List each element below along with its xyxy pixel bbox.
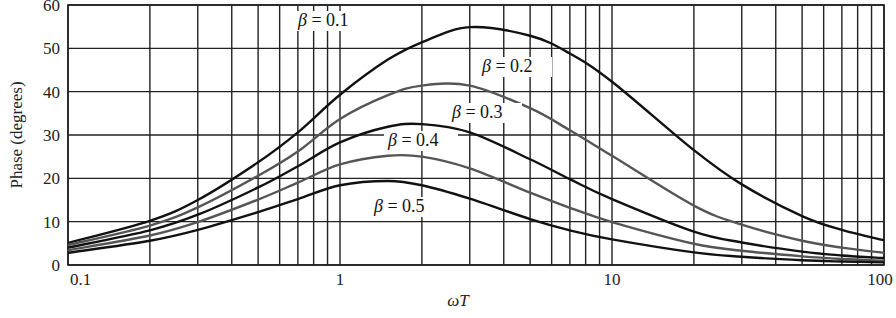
y-tick-label: 60 bbox=[43, 0, 60, 15]
x-tick-label: 1 bbox=[336, 270, 345, 289]
curve-0.3 bbox=[68, 124, 884, 258]
curve-label: β = 0.5 bbox=[373, 196, 425, 216]
x-axis-title: ωT bbox=[447, 291, 470, 310]
x-tick-label: 100 bbox=[867, 270, 893, 289]
y-axis-ticks: 0102030405060 bbox=[43, 0, 60, 275]
phase-chart: 0.1110100 0102030405060 ωT Phase (degree… bbox=[0, 0, 896, 318]
y-tick-label: 20 bbox=[43, 169, 60, 188]
curves bbox=[68, 27, 884, 262]
curve-label: β = 0.2 bbox=[481, 56, 533, 76]
y-tick-label: 40 bbox=[43, 83, 60, 102]
y-tick-label: 30 bbox=[43, 126, 60, 145]
y-axis-title: Phase (degrees) bbox=[7, 81, 26, 188]
curve-label: β = 0.1 bbox=[297, 10, 349, 30]
y-tick-label: 0 bbox=[52, 256, 61, 275]
curve-label: β = 0.3 bbox=[451, 102, 503, 122]
x-axis-ticks: 0.1110100 bbox=[70, 270, 893, 289]
x-tick-label: 0.1 bbox=[70, 270, 91, 289]
y-tick-label: 10 bbox=[43, 213, 60, 232]
x-tick-label: 10 bbox=[604, 270, 621, 289]
y-tick-label: 50 bbox=[43, 39, 60, 58]
curve-label: β = 0.4 bbox=[387, 130, 439, 150]
